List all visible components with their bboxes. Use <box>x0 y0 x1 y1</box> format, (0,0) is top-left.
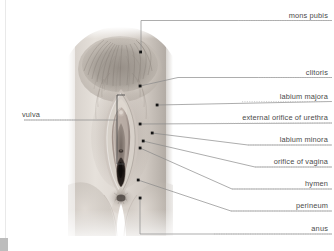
leader-labium-majora <box>157 102 332 106</box>
illustration-canvas: mons pubis clitoris labium majora extern… <box>0 0 334 251</box>
label-anus: anus <box>311 224 328 233</box>
label-clitoris: clitoris <box>306 68 328 77</box>
page-edge-rule <box>5 0 6 251</box>
anatomy-illustration <box>68 27 173 236</box>
label-urethra-orifice: external orifice of urethra <box>242 113 328 122</box>
label-mons-pubis: mons pubis <box>289 11 328 20</box>
label-vulva: vulva <box>22 110 40 119</box>
label-vagina-orifice: orifice of vagina <box>274 157 328 166</box>
label-hymen: hymen <box>305 179 328 188</box>
label-labium-majora: labium majora <box>280 92 328 101</box>
label-perineum: perineum <box>296 201 328 210</box>
label-labium-minora: labium minora <box>280 135 328 144</box>
corner-registration-mark <box>0 238 8 251</box>
